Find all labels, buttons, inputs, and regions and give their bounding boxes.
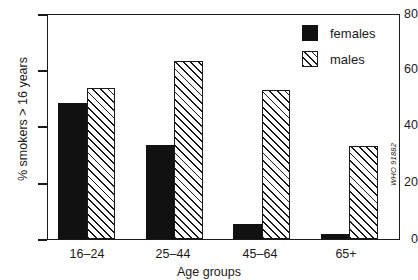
bar-females-65+ <box>321 234 350 239</box>
chart-legend: females males <box>255 22 385 74</box>
legend-swatch-females-icon <box>302 25 318 41</box>
bar-females-45-64 <box>233 224 262 239</box>
bar-males-45-64 <box>262 90 291 239</box>
x-tick-label-45-64: 45–64 <box>220 248 300 261</box>
bar-females-25-44 <box>146 145 175 239</box>
y-tick-mark-60 <box>38 70 47 72</box>
bar-females-16-24 <box>58 103 87 239</box>
legend-label-females: females <box>330 26 376 41</box>
x-tick-label-16-24: 16–24 <box>47 248 127 261</box>
x-tick-label-65-plus: 65+ <box>306 248 386 261</box>
y-tick-mark-40 <box>38 126 47 128</box>
legend-swatch-males-icon <box>302 51 318 67</box>
chart-page: % smokers > 16 years 80 60 40 20 0 16–24… <box>0 0 418 280</box>
x-axis-title: Age groups <box>0 265 418 279</box>
legend-item-males: males <box>255 48 385 70</box>
y-tick-mark-0 <box>38 239 47 241</box>
legend-label-males: males <box>330 52 365 67</box>
bar-males-25-44 <box>174 61 203 239</box>
bar-males-16-24 <box>87 88 116 239</box>
credit-text: WHO 91882 <box>389 116 398 186</box>
bar-males-65+ <box>349 146 378 239</box>
legend-item-females: females <box>255 22 385 44</box>
x-tick-label-25-44: 25–44 <box>133 248 213 261</box>
y-axis-title: % smokers > 16 years <box>16 19 30 219</box>
y-tick-mark-80 <box>38 14 47 16</box>
y-tick-mark-20 <box>38 183 47 185</box>
